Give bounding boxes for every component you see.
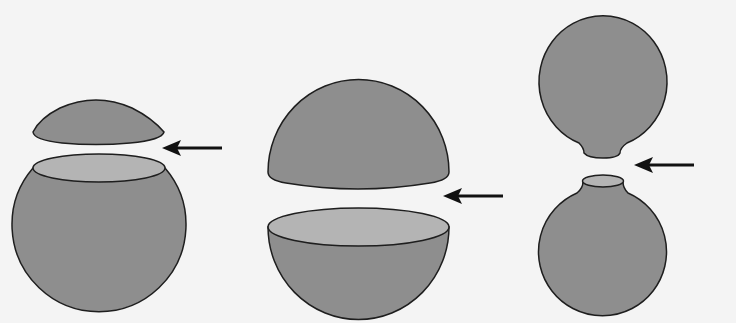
cap-piece	[33, 100, 164, 145]
diagram-canvas	[0, 0, 736, 323]
cut-surface	[33, 154, 165, 182]
upper-hemisphere	[268, 80, 449, 189]
lower-bulb	[539, 182, 667, 316]
arrow-icon	[634, 157, 694, 173]
sphere-body	[12, 168, 186, 312]
figure-hemisphere-cut	[268, 80, 503, 320]
upper-bulb	[539, 16, 667, 158]
figure-small-cap-cut	[12, 100, 222, 312]
cut-surface	[268, 208, 449, 246]
cut-surface	[583, 175, 624, 187]
figure-neck-cut	[539, 16, 694, 316]
arrow-icon	[443, 188, 503, 204]
arrow-icon	[162, 140, 222, 156]
diagram-svg	[0, 0, 736, 323]
